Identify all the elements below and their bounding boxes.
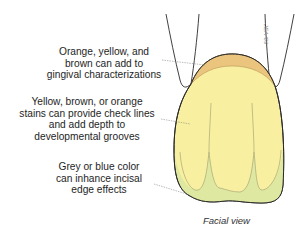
root-left-outline xyxy=(166,14,191,87)
label-line: gingival characterizations xyxy=(44,69,164,81)
leader-line-gingival xyxy=(162,60,205,65)
artist-signature: JEA '89 xyxy=(263,23,269,45)
root-right-outline xyxy=(270,14,294,87)
label-gingival: Orange, yellow, and brown can add to gin… xyxy=(44,46,164,81)
label-line: stains can provide check lines xyxy=(12,108,162,120)
label-line: Orange, yellow, and xyxy=(44,46,164,58)
label-line: developmental grooves xyxy=(12,131,162,143)
label-line: edge effects xyxy=(44,184,154,196)
label-line: can inhance incisal xyxy=(44,173,154,185)
label-line: Yellow, brown, or orange xyxy=(12,96,162,108)
label-line: brown can add to xyxy=(44,58,164,70)
figure-caption: Facial view xyxy=(203,215,250,226)
label-body: Yellow, brown, or orange stains can prov… xyxy=(12,96,162,142)
label-line: Grey or blue color xyxy=(44,161,154,173)
label-line: and add depth to xyxy=(12,119,162,131)
label-incisal: Grey or blue color can inhance incisal e… xyxy=(44,161,154,196)
